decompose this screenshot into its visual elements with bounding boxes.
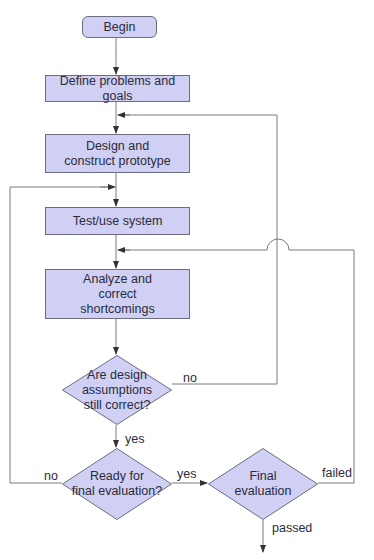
analyze-shortcomings-label: Analyze and correct shortcomings bbox=[80, 272, 154, 317]
edge-label-ready-no: no bbox=[44, 469, 58, 483]
assumptions-label: Are design assumptions still correct? bbox=[82, 368, 152, 413]
edge-label-assumptions-no: no bbox=[183, 371, 197, 385]
design-prototype-label: Design and construct prototype bbox=[64, 139, 170, 169]
final-evaluation-decision: Final evaluation bbox=[208, 448, 318, 520]
define-problems-label: Define problems and goals bbox=[46, 74, 189, 104]
assumptions-decision: Are design assumptions still correct? bbox=[62, 355, 172, 425]
begin-label: Begin bbox=[104, 20, 136, 35]
edge-label-ready-yes: yes bbox=[177, 467, 196, 481]
analyze-shortcomings-node: Analyze and correct shortcomings bbox=[45, 269, 190, 319]
begin-node: Begin bbox=[82, 16, 157, 38]
ready-label: Ready for final evaluation? bbox=[72, 469, 162, 499]
test-system-label: Test/use system bbox=[73, 214, 163, 229]
design-prototype-node: Design and construct prototype bbox=[45, 134, 190, 173]
edge-label-final-failed: failed bbox=[322, 466, 352, 480]
define-problems-node: Define problems and goals bbox=[45, 75, 190, 102]
edge-label-assumptions-yes: yes bbox=[125, 432, 144, 446]
final-evaluation-label: Final evaluation bbox=[235, 469, 292, 499]
edge-label-final-passed: passed bbox=[272, 521, 312, 535]
ready-decision: Ready for final evaluation? bbox=[62, 448, 172, 520]
test-system-node: Test/use system bbox=[45, 207, 190, 235]
